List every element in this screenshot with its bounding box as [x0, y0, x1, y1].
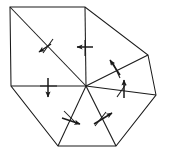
polygon-outline: [10, 7, 156, 146]
polygon-mesh-diagram: [0, 0, 169, 159]
diagram-canvas: [0, 0, 169, 159]
